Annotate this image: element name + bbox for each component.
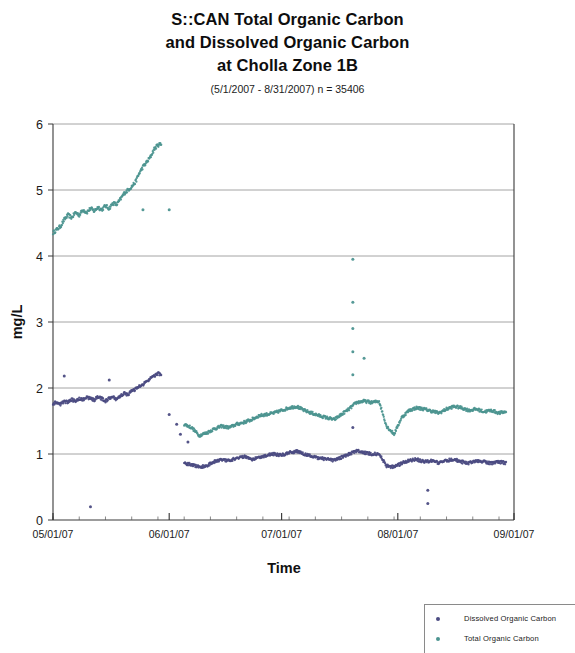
chart-legend: Dissolved Organic Carbon Total Organic C… [424, 604, 575, 653]
series-doc [52, 371, 507, 508]
y-tick-label: 6 [36, 118, 43, 132]
legend-label-toc: Total Organic Carbon [464, 634, 539, 643]
legend-dot-marker-toc [436, 637, 440, 641]
x-tick-label: 08/01/07 [377, 528, 418, 540]
legend-dot-marker-doc [436, 617, 440, 621]
x-tick-label: 05/01/07 [33, 528, 74, 540]
y-tick-label: 3 [36, 316, 43, 330]
y-tick-label: 4 [36, 250, 43, 264]
data-points [52, 142, 507, 508]
plot-svg: 012345605/01/0706/01/0707/01/0708/01/070… [0, 0, 575, 600]
legend-item-doc: Dissolved Organic Carbon [425, 612, 575, 625]
x-axis-title: Time [267, 560, 301, 576]
x-tick-label: 09/01/07 [494, 528, 535, 540]
tick-labels: 012345605/01/0706/01/0707/01/0708/01/070… [33, 118, 535, 541]
legend-item-toc: Total Organic Carbon [425, 632, 575, 645]
chart-container: S::CAN Total Organic Carbon and Dissolve… [0, 0, 575, 653]
series-toc [52, 142, 507, 438]
y-tick-label: 2 [36, 382, 43, 396]
grid-lines [53, 124, 514, 454]
y-axis-title: mg/L [9, 305, 25, 340]
y-tick-label: 0 [36, 514, 43, 528]
x-tick-label: 06/01/07 [149, 528, 190, 540]
y-tick-label: 1 [36, 448, 43, 462]
y-tick-label: 5 [36, 184, 43, 198]
x-tick-label: 07/01/07 [261, 528, 302, 540]
legend-label-doc: Dissolved Organic Carbon [464, 614, 556, 623]
